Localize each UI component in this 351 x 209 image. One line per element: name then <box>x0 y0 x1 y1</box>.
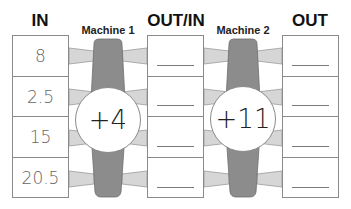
in-cell: 20.5 <box>13 158 68 198</box>
answer-blank-line <box>292 187 329 188</box>
answer-blank-line <box>157 146 194 147</box>
connector <box>204 48 229 64</box>
machine-2-rule-circle: +11 <box>210 86 276 152</box>
machine-2-rule: +11 <box>216 104 271 134</box>
out-in-header: OUT/IN <box>147 11 205 31</box>
answer-blank-line <box>157 65 194 66</box>
out-header: OUT <box>292 11 328 31</box>
connector <box>257 171 282 187</box>
machine-1-rule-circle: +4 <box>75 87 141 153</box>
out-in-cell[interactable] <box>148 158 203 198</box>
out-in-column <box>147 35 204 198</box>
in-cell: 15 <box>13 117 68 158</box>
in-cell: 8 <box>13 36 68 77</box>
out-in-cell[interactable] <box>148 77 203 117</box>
connector <box>69 171 94 187</box>
connector <box>122 171 147 187</box>
machine-1-rule: +4 <box>89 105 127 135</box>
in-value: 2.5 <box>27 87 54 107</box>
in-value: 15 <box>30 127 52 147</box>
answer-blank-line <box>157 105 194 106</box>
answer-blank-line <box>292 105 329 106</box>
connector <box>122 48 147 64</box>
answer-blank-line <box>292 65 329 66</box>
function-machine-diagram: IN Machine 1 OUT/IN Machine 2 OUT 8 2.5 … <box>0 0 351 209</box>
out-column <box>282 35 339 198</box>
out-in-cell[interactable] <box>148 117 203 158</box>
out-cell[interactable] <box>283 117 338 158</box>
out-cell[interactable] <box>283 77 338 117</box>
in-header: IN <box>32 11 49 31</box>
answer-blank-line <box>157 187 194 188</box>
out-cell[interactable] <box>283 158 338 198</box>
in-column: 8 2.5 15 20.5 <box>12 35 69 198</box>
in-value: 8 <box>35 46 46 66</box>
out-in-cell[interactable] <box>148 36 203 77</box>
out-cell[interactable] <box>283 36 338 77</box>
connector <box>204 171 229 187</box>
in-value: 20.5 <box>22 168 60 188</box>
in-cell: 2.5 <box>13 77 68 117</box>
connector <box>257 48 282 64</box>
answer-blank-line <box>292 146 329 147</box>
machine-1-header: Machine 1 <box>81 24 134 36</box>
connector <box>69 48 94 64</box>
machine-2-header: Machine 2 <box>216 24 269 36</box>
